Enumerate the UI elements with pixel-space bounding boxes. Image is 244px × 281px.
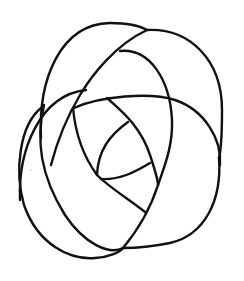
knot-stroke-top-right-outer (147, 30, 222, 158)
knot-stroke-bottom-right-outer (123, 158, 219, 248)
knot-diagram (0, 0, 244, 281)
knot-stroke-bottom-diagonal (123, 185, 158, 248)
stray-artifact-dot (30, 169, 32, 171)
knot-stroke-center-arc-wide (74, 96, 220, 165)
knot-stroke-inner-diagonal-long (51, 30, 147, 165)
knot-strokes (19, 23, 222, 258)
knot-stroke-petal-inner-left (97, 122, 128, 175)
knot-stroke-petal-inner-bottom (101, 163, 150, 179)
